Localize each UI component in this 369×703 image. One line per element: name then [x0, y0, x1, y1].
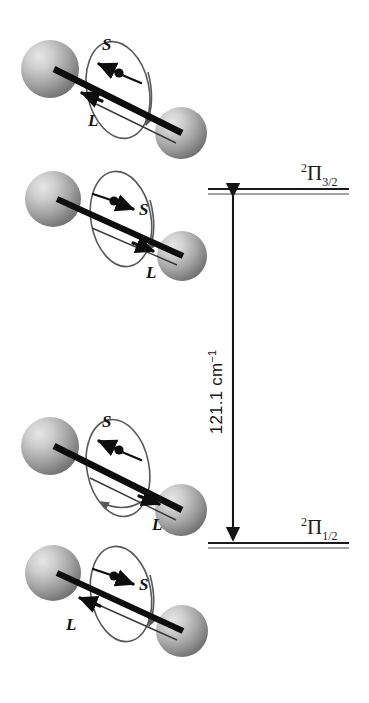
axis-stub [122, 452, 141, 460]
spin-orbit-diagram: S L S L [0, 0, 369, 703]
spin-vector-label: S [139, 200, 148, 219]
molecule-lower-1: S L [21, 412, 207, 536]
spin-vector-arrow [99, 64, 117, 72]
spin-vector-label: S [102, 412, 111, 431]
bond-axis [57, 199, 183, 256]
axis-stub [93, 194, 111, 200]
spin-vector-arrow [99, 441, 117, 449]
orbital-vector-arrow [80, 598, 100, 606]
molecule-upper-2: S L [25, 167, 207, 282]
spin-vector-arrow [117, 578, 133, 584]
splitting-unit-exponent: −1 [206, 350, 218, 363]
upper-level-term-symbol: 2Π3/2 [301, 161, 338, 189]
axis-stub [93, 569, 111, 575]
splitting-value-label: 121.1 cm−1 [206, 350, 226, 435]
atom-sphere-left [25, 545, 81, 601]
orbital-vector-label: L [65, 615, 76, 634]
molecule-lower-2: S L [25, 542, 208, 657]
upper-term-pi: Π [307, 161, 322, 185]
splitting-unit: cm [207, 363, 226, 386]
rotation-ellipse [83, 542, 159, 647]
orbital-vector-label: L [145, 263, 156, 282]
splitting-measurement: 121.1 cm−1 [206, 196, 233, 540]
splitting-value: 121.1 [207, 391, 226, 435]
figure-canvas: S L S L [0, 0, 369, 703]
bond-axis [54, 69, 182, 133]
atom-sphere-left [21, 40, 79, 98]
spin-vector-arrow [117, 203, 133, 209]
bond-axis [54, 446, 182, 510]
orbital-vector-label: L [87, 111, 98, 130]
atom-sphere-left [21, 417, 79, 475]
lower-energy-level: 2Π1/2 [208, 515, 349, 548]
lower-term-pi: Π [307, 515, 322, 539]
orbital-vector-label: L [151, 515, 162, 534]
molecule-upper-1: S L [21, 35, 207, 159]
lower-level-term-symbol: 2Π1/2 [301, 515, 338, 543]
lower-term-subscript: 1/2 [322, 529, 337, 543]
upper-energy-level: 2Π3/2 [208, 161, 349, 194]
atom-sphere-left [25, 171, 81, 227]
upper-term-subscript: 3/2 [322, 175, 337, 189]
spin-vector-label: S [102, 35, 111, 54]
axis-stub [122, 75, 141, 83]
spin-vector-label: S [139, 575, 148, 594]
